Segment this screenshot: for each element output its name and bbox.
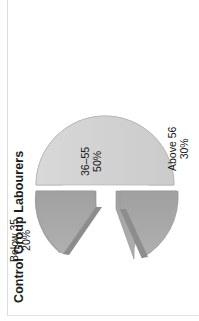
slice-label-below-35: Below 35 20%	[9, 219, 32, 262]
pie-chart-figure: Control Group Labourers	[0, 0, 199, 321]
slice-above-56	[116, 191, 178, 259]
slice-36-55	[36, 116, 174, 185]
slice-label-36-55-percent: 50%	[92, 147, 104, 176]
slice-label-36-55-name: 36–55	[80, 147, 92, 176]
pie-chart-graphic: Below 35 20% 36–55 50% Above 56 30%	[30, 45, 180, 283]
pie-chart-icon	[30, 45, 180, 283]
slice-label-below-35-name: Below 35	[9, 219, 21, 262]
slice-below-35	[35, 191, 102, 255]
slice-label-36-55: 36–55 50%	[80, 147, 103, 176]
slice-label-above-56-name: Above 56	[167, 127, 179, 171]
slice-label-below-35-percent: 20%	[21, 219, 33, 262]
rotated-plot-stage: Control Group Labourers	[0, 0, 199, 321]
slice-label-above-56: Above 56 30%	[167, 127, 190, 171]
slice-label-above-56-percent: 30%	[179, 127, 191, 171]
